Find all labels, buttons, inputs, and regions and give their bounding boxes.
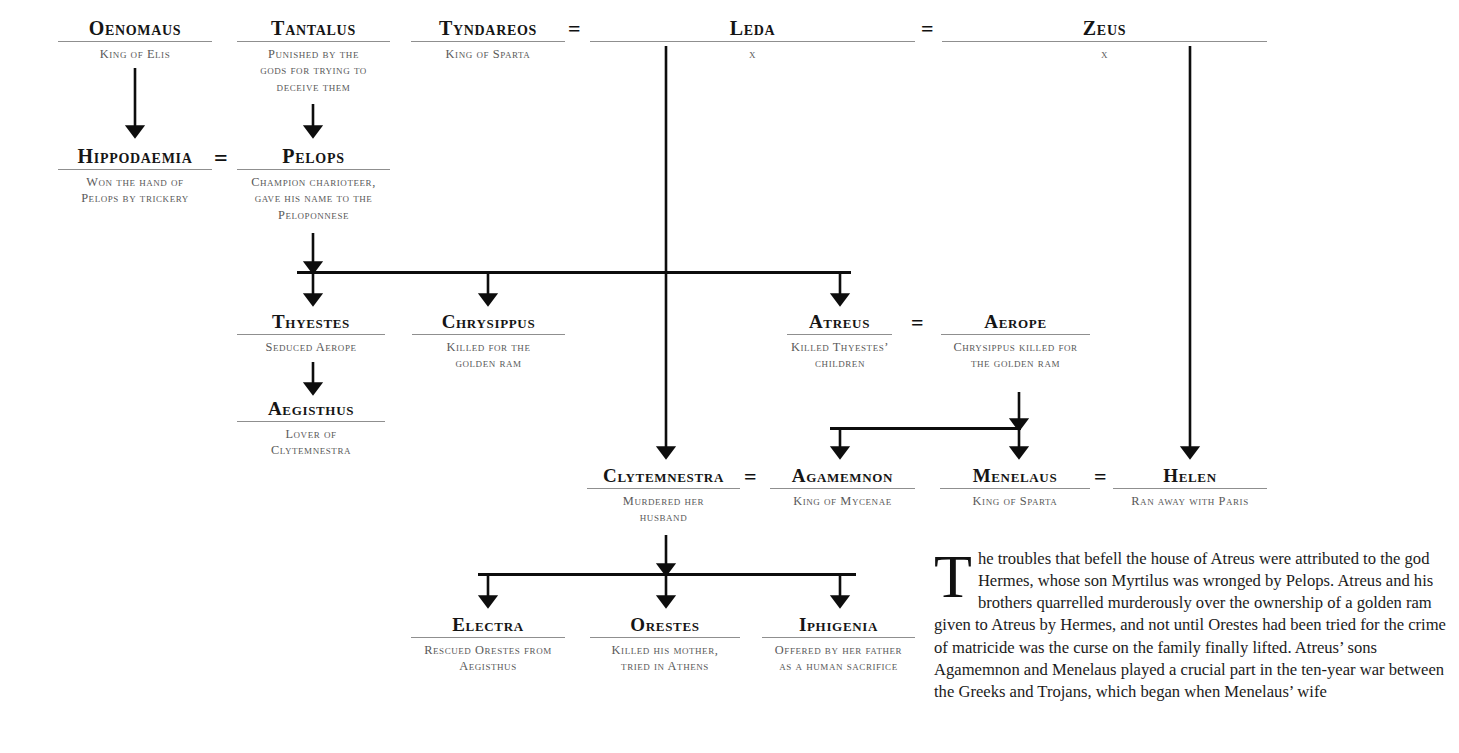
node-tantalus[interactable]: Tantalus Punished by the gods for trying… [237,18,390,95]
node-thyestes-name: Thyestes [237,312,385,331]
node-rule [787,334,892,335]
story-dropcap: T [934,550,978,602]
marriage-symbol-atreus-aerope: = [911,312,924,334]
node-hippodaemia-desc: Won the hand of Pelops by trickery [58,174,212,207]
node-rule [237,334,385,335]
node-iphigenia[interactable]: Iphigenia Offered by her father as a hum… [762,615,915,675]
marriage-symbol-hippodaemia-pelops: = [214,146,228,170]
node-agamemnon[interactable]: Agamemnon King of Mycenae [770,466,915,509]
node-iphigenia-desc: Offered by her father as a human sacrifi… [762,642,915,675]
node-thyestes-desc: Seduced Aerope [237,339,385,355]
marriage-symbol-clytemnestra-agamemnon: = [744,466,757,488]
node-electra-desc: Rescued Orestes from Aegisthus [411,642,565,675]
node-pelops-desc: Champion charioteer, gave his name to th… [237,174,390,223]
node-rule [411,41,565,42]
node-menelaus-desc: King of Sparta [940,493,1090,509]
node-zeus-name: Zeus [942,18,1267,38]
story-body: he troubles that befell the house of Atr… [934,549,1446,701]
node-oenomaus[interactable]: Oenomaus King of Elis [58,18,212,62]
node-rule [237,41,390,42]
node-rule [412,334,565,335]
node-aerope[interactable]: Aerope Chrysippus killed for the golden … [941,312,1090,372]
node-menelaus-name: Menelaus [940,466,1090,485]
node-pelops-name: Pelops [237,146,390,166]
node-aerope-name: Aerope [941,312,1090,331]
story-paragraph: The troubles that befell the house of At… [934,548,1450,703]
node-agamemnon-name: Agamemnon [770,466,915,485]
node-electra[interactable]: Electra Rescued Orestes from Aegisthus [411,615,565,675]
node-rule [237,421,385,422]
node-tantalus-desc: Punished by the gods for trying to decei… [237,46,390,95]
node-helen-desc: Ran away with Paris [1113,493,1267,509]
node-electra-name: Electra [411,615,565,634]
node-rule [941,334,1090,335]
node-zeus-desc: x [942,46,1267,62]
node-oenomaus-name: Oenomaus [58,18,212,38]
node-atreus[interactable]: Atreus Killed Thyestes’ children [787,312,892,372]
node-thyestes[interactable]: Thyestes Seduced Aerope [237,312,385,355]
node-hippodaemia-name: Hippodaemia [58,146,212,166]
node-rule [58,41,212,42]
node-oenomaus-desc: King of Elis [58,46,212,62]
node-clytemnestra-name: Clytemnestra [587,466,740,485]
node-clytemnestra[interactable]: Clytemnestra Murdered her husband [587,466,740,526]
node-rule [411,637,565,638]
node-chrysippus-name: Chrysippus [412,312,565,331]
node-tyndareos[interactable]: Tyndareos King of Sparta [411,18,565,62]
node-aegisthus[interactable]: Aegisthus Lover of Clytemnestra [237,399,385,459]
node-aerope-desc: Chrysippus killed for the golden ram [941,339,1090,372]
node-tantalus-name: Tantalus [237,18,390,38]
node-rule [762,637,915,638]
node-orestes-desc: Killed his mother, tried in Athens [590,642,740,675]
marriage-symbol-menelaus-helen: = [1094,466,1107,488]
marriage-symbol-tyndareos-leda: = [568,18,581,40]
node-rule [1113,488,1267,489]
node-menelaus[interactable]: Menelaus King of Sparta [940,466,1090,509]
node-leda-desc: x [590,46,915,62]
marriage-symbol-leda-zeus: = [921,18,934,40]
node-rule [590,637,740,638]
node-atreus-desc: Killed Thyestes’ children [766,339,914,372]
node-tyndareos-name: Tyndareos [411,18,565,38]
node-iphigenia-name: Iphigenia [762,615,915,634]
node-chrysippus[interactable]: Chrysippus Killed for the golden ram [412,312,565,372]
node-aegisthus-name: Aegisthus [237,399,385,418]
node-leda[interactable]: Leda x [590,18,915,62]
node-agamemnon-desc: King of Mycenae [770,493,915,509]
node-leda-name: Leda [590,18,915,38]
node-orestes-name: Orestes [590,615,740,634]
node-rule [590,41,915,42]
node-zeus[interactable]: Zeus x [942,18,1267,62]
node-tyndareos-desc: King of Sparta [411,46,565,62]
node-clytemnestra-desc: Murdered her husband [587,493,740,526]
node-hippodaemia[interactable]: Hippodaemia Won the hand of Pelops by tr… [58,146,212,207]
node-helen-name: Helen [1113,466,1267,485]
node-aegisthus-desc: Lover of Clytemnestra [237,426,385,459]
node-rule [940,488,1090,489]
node-orestes[interactable]: Orestes Killed his mother, tried in Athe… [590,615,740,675]
node-pelops[interactable]: Pelops Champion charioteer, gave his nam… [237,146,390,223]
node-rule [58,169,212,170]
node-rule [237,169,390,170]
node-atreus-name: Atreus [787,312,892,331]
node-rule [942,41,1267,42]
node-rule [770,488,915,489]
node-chrysippus-desc: Killed for the golden ram [412,339,565,372]
node-helen[interactable]: Helen Ran away with Paris [1113,466,1267,509]
node-rule [587,488,740,489]
